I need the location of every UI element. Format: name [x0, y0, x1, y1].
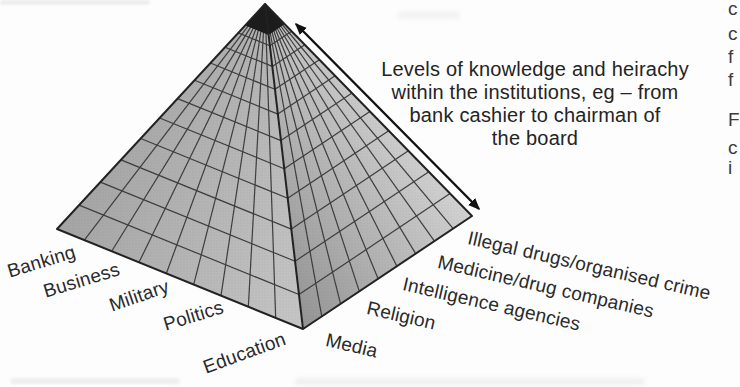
annotation-line: Levels of knowledge and heirachy [357, 58, 713, 81]
scan-artifact [0, 0, 150, 5]
clipped-text-fragment: c [728, 138, 738, 157]
clipped-text-fragment: i [728, 158, 732, 177]
clipped-text-fragment: f [728, 47, 733, 66]
clipped-text-fragment: F [728, 110, 740, 129]
annotation-line: the board [357, 127, 713, 150]
hierarchy-annotation: Levels of knowledge and heirachy within … [357, 58, 713, 150]
scan-artifact [10, 378, 180, 384]
clipped-text-fragment: f [728, 70, 733, 89]
annotation-line: within the institutions, eg – from [357, 81, 713, 104]
clipped-text-fragment: c [728, 24, 738, 43]
scan-artifact [398, 11, 460, 19]
annotation-line: bank cashier to chairman of [357, 104, 713, 127]
scan-artifact [295, 378, 645, 385]
clipped-text-fragment: c [728, 0, 738, 18]
